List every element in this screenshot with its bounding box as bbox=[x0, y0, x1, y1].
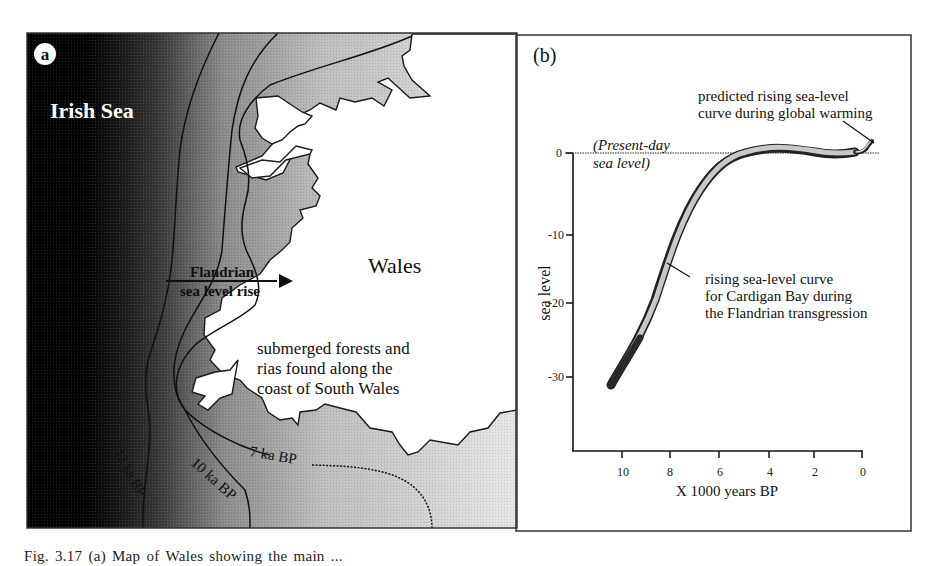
panel-b-chart: (b) 0 -10 -20 -30 10 8 6 4 bbox=[516, 35, 911, 531]
cardigan-annotation-1: rising sea-level curve bbox=[705, 271, 834, 287]
figure-caption: Fig.3.17(a)MapofWalesshowingthemain... bbox=[24, 548, 349, 565]
present-day-label-2: sea level) bbox=[593, 155, 650, 172]
submerged-forests-note-2: rias found along the bbox=[257, 359, 393, 378]
submerged-forests-note-1: submerged forests and bbox=[257, 339, 410, 358]
caption-word: Map bbox=[112, 548, 140, 564]
submerged-forests-note-3: coast of South Wales bbox=[257, 379, 399, 398]
cardigan-bay-curve-fill bbox=[612, 147, 855, 383]
caption-word: of bbox=[146, 548, 159, 564]
caption-word: main bbox=[293, 548, 324, 564]
y-tick-minus10: -10 bbox=[548, 228, 564, 242]
y-axis-label: sea level bbox=[536, 265, 553, 321]
present-day-label-1: (Present-day bbox=[593, 137, 670, 154]
caption-word: 3.17 bbox=[55, 548, 82, 564]
y-ticks: 0 -10 -20 -30 bbox=[548, 146, 573, 384]
predicted-annotation-2: curve during global warming bbox=[698, 105, 873, 121]
panel-a-label: a bbox=[41, 45, 50, 64]
caption-word: (a) bbox=[88, 548, 106, 564]
caption-word: showing bbox=[209, 548, 262, 564]
cardigan-annotation-2: for Cardigan Bay during bbox=[705, 288, 853, 304]
caption-word: ... bbox=[331, 548, 343, 564]
x-tick-10: 10 bbox=[617, 465, 629, 479]
x-axis-label: X 1000 years BP bbox=[676, 483, 778, 499]
wales-label: Wales bbox=[368, 253, 421, 278]
x-tick-4: 4 bbox=[767, 465, 773, 479]
panel-b-frame bbox=[516, 35, 911, 252]
irish-sea-label: Irish Sea bbox=[50, 98, 134, 123]
x-tick-6: 6 bbox=[717, 465, 723, 479]
caption-word: the bbox=[268, 548, 287, 564]
flandrian-label: Flandrian bbox=[190, 264, 255, 280]
x-tick-2: 2 bbox=[812, 465, 818, 479]
caption-word: Wales bbox=[166, 548, 204, 564]
predicted-annotation-leader bbox=[843, 121, 874, 143]
x-ticks: 10 8 6 4 2 0 bbox=[617, 451, 866, 479]
y-tick-minus30: -30 bbox=[548, 370, 564, 384]
panel-a-map: 12 ka BP 10 ka BP 7 ka BP Flandrian sea … bbox=[27, 33, 517, 528]
y-tick-0: 0 bbox=[556, 146, 562, 160]
x-tick-0: 0 bbox=[860, 465, 866, 479]
cardigan-annotation-3: the Flandrian transgression bbox=[705, 305, 868, 321]
x-tick-8: 8 bbox=[667, 465, 673, 479]
cardigan-bay-curve-band bbox=[611, 148, 855, 385]
panel-b-label: (b) bbox=[533, 44, 556, 67]
cardigan-bay-curve-lower-dark bbox=[611, 338, 640, 385]
caption-word: Fig. bbox=[24, 548, 49, 564]
sea-level-rise-label: sea level rise bbox=[180, 283, 260, 299]
cardigan-annotation-leader bbox=[667, 263, 690, 277]
predicted-annotation-1: predicted rising sea-level bbox=[698, 88, 849, 104]
